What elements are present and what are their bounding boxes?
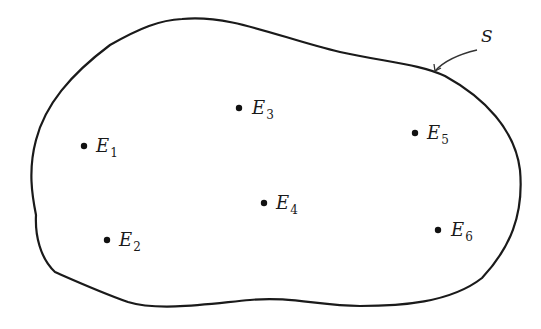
point-e4-subscript: 4 [290,203,298,217]
s-pointer-arrow [435,50,477,71]
point-e5-subscript: 5 [441,133,449,147]
point-e5-base: E [427,122,440,143]
point-e3-dot [236,105,242,111]
set-s-label: S [481,28,493,45]
point-e5-label: E5 [427,124,449,146]
point-e5-dot [412,130,418,136]
point-e1-label: E1 [96,137,118,159]
point-e2-dot [104,237,110,243]
point-e6-dot [435,227,441,233]
point-e1-base: E [96,135,109,156]
sample-space-diagram [0,0,541,329]
point-e4-label: E4 [276,194,298,216]
s-pointer-arrowhead [434,64,441,71]
point-e2-subscript: 2 [133,240,141,254]
point-e6-base: E [451,219,464,240]
point-e2-base: E [119,229,132,250]
point-e3-label: E3 [252,99,274,121]
point-e4-base: E [276,192,289,213]
point-e2-label: E2 [119,231,141,253]
point-e6-subscript: 6 [465,230,473,244]
point-e6-label: E6 [451,221,473,243]
point-e1-subscript: 1 [110,146,118,160]
point-e3-subscript: 3 [266,108,274,122]
point-e1-dot [81,143,87,149]
point-e3-base: E [252,97,265,118]
point-e4-dot [261,200,267,206]
